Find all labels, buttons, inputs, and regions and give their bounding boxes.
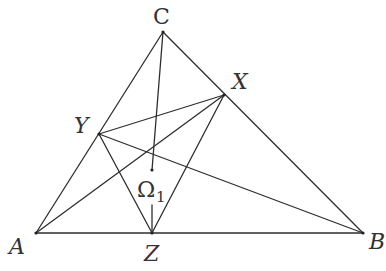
label-b: B — [368, 229, 385, 254]
point-y — [97, 132, 100, 135]
geometry-diagram: C X Y A Z B Ω 1 — [0, 0, 386, 271]
side-xy — [99, 95, 224, 134]
label-c: C — [153, 4, 170, 29]
point-x — [222, 93, 225, 96]
label-y: Y — [74, 113, 91, 138]
point-b — [361, 231, 364, 234]
label-z: Z — [143, 241, 160, 266]
side-bc — [163, 32, 363, 233]
point-c — [161, 30, 164, 33]
label-a: A — [7, 234, 25, 259]
label-x: X — [230, 69, 249, 94]
label-omega-subscript: 1 — [156, 188, 166, 206]
segment-a-x — [36, 95, 224, 233]
label-omega: Ω — [137, 177, 155, 202]
segment-c-omega — [152, 32, 163, 170]
point-omega — [150, 168, 153, 171]
point-a — [34, 231, 37, 234]
side-zx — [152, 95, 224, 233]
point-z — [150, 231, 153, 234]
